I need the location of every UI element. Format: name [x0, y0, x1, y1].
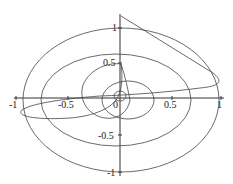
spiral-plot: -1 -0.5 0 0.5 1 1 0.5 -0.5 -1 — [0, 0, 233, 184]
y-tick-label: 1 — [112, 22, 117, 33]
x-tick-label: 0.5 — [164, 99, 177, 110]
y-tick-label: -1 — [107, 167, 115, 178]
x-tick-label: -0.5 — [58, 99, 74, 110]
x-tick-label: 1 — [217, 99, 222, 110]
y-tick-label: 0.5 — [103, 57, 116, 68]
x-tick-label: -1 — [9, 99, 17, 110]
y-tick-label: -0.5 — [98, 130, 114, 141]
